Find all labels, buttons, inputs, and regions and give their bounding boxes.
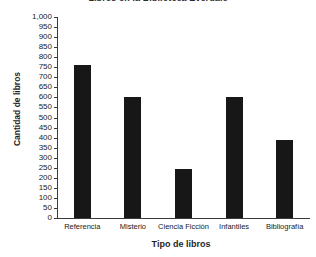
y-axis-tick-label: 400	[39, 132, 52, 143]
bar	[175, 169, 192, 218]
y-axis-tick-mark	[54, 138, 58, 139]
y-axis-tick-label: 800	[39, 51, 52, 62]
y-axis-tick-mark	[54, 107, 58, 108]
y-axis-tick-label: 100	[39, 192, 52, 203]
y-axis-tick-mark	[54, 158, 58, 159]
x-axis-line	[56, 218, 310, 219]
bar	[276, 140, 293, 218]
x-axis-title: Tipo de libros	[52, 239, 310, 249]
y-axis-tick-mark	[54, 208, 58, 209]
y-axis-tick-mark	[54, 47, 58, 48]
y-axis-tick-mark	[54, 27, 58, 28]
y-axis-tick-mark	[54, 17, 58, 18]
y-axis-tick-label: 50	[43, 202, 52, 213]
y-axis-tick-label: 600	[39, 91, 52, 102]
y-axis-title: Cantidad de libros	[12, 54, 22, 164]
y-axis-tick-label: 750	[39, 61, 52, 72]
y-axis-tick-label: 900	[39, 31, 52, 42]
y-axis-tick-mark	[54, 87, 58, 88]
y-axis-tick-label: 250	[39, 162, 52, 173]
y-axis-tick-mark	[54, 37, 58, 38]
bar	[74, 65, 91, 218]
y-axis-tick-label: 650	[39, 81, 52, 92]
y-axis-tick-label: 550	[39, 101, 52, 112]
y-axis-tick-mark	[54, 178, 58, 179]
y-axis-tick-mark	[54, 128, 58, 129]
y-axis-tick-label: 350	[39, 142, 52, 153]
y-axis-tick-mark	[54, 118, 58, 119]
x-axis-category-label: Ciencia Ficción	[158, 222, 209, 232]
y-axis-tick-mark	[54, 218, 58, 219]
plot-area: 0501001502002503003504004505005506006507…	[57, 17, 310, 218]
x-axis-category-label: Infantiles	[219, 222, 249, 232]
y-axis-tick-label: 500	[39, 112, 52, 123]
y-axis-tick-mark	[54, 168, 58, 169]
x-axis-category-label: Bibliografía	[266, 222, 304, 232]
bar	[226, 97, 243, 218]
y-axis-tick-label: 950	[39, 21, 52, 32]
y-axis-tick-mark	[54, 148, 58, 149]
x-axis-category-label: Referencia	[64, 222, 100, 232]
y-axis-tick-mark	[54, 198, 58, 199]
bar	[124, 97, 141, 218]
y-axis-tick-mark	[54, 77, 58, 78]
y-axis-tick-label: 850	[39, 41, 52, 52]
y-axis-tick-mark	[54, 97, 58, 98]
y-axis-tick-label: 200	[39, 172, 52, 183]
y-axis-tick-label: 300	[39, 152, 52, 163]
bar-chart-figure: Libros en la Biblioteca Everdale Cantida…	[0, 0, 316, 257]
y-axis-tick-label: 1,000	[32, 11, 52, 22]
y-axis-tick-mark	[54, 188, 58, 189]
y-axis-tick-label: 700	[39, 71, 52, 82]
y-axis-tick-label: 0	[48, 212, 52, 223]
x-axis-category-label: Misterio	[120, 222, 146, 232]
y-axis-tick-label: 450	[39, 122, 52, 133]
y-axis-tick-label: 150	[39, 182, 52, 193]
y-axis-tick-mark	[54, 57, 58, 58]
chart-title: Libros en la Biblioteca Everdale	[0, 0, 316, 3]
y-axis-tick-mark	[54, 67, 58, 68]
